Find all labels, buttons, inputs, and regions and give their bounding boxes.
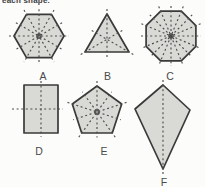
center-dot <box>38 35 40 37</box>
shape-B: B <box>81 9 134 82</box>
shape-C: C <box>141 6 201 82</box>
center-dot <box>96 111 98 113</box>
shape-label-E: E <box>100 145 107 157</box>
shape-F: F <box>135 80 190 187</box>
center-dot <box>170 35 172 37</box>
shape-label-D: D <box>35 145 43 157</box>
figure-canvas: ABCDEF <box>0 0 205 187</box>
shape-label-F: F <box>161 176 167 187</box>
shape-E: E <box>68 81 127 157</box>
shape-label-B: B <box>104 70 111 82</box>
shape-A: A <box>9 9 69 82</box>
shape-label-A: A <box>39 70 46 82</box>
worksheet-page: each shape. ABCDEF <box>0 0 205 187</box>
shape-D: D <box>12 81 63 157</box>
shape-label-C: C <box>166 70 174 82</box>
